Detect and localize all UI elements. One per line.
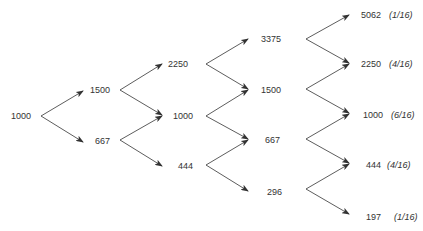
node-s4-3: 444	[366, 160, 381, 170]
node-s2-2: 444	[178, 161, 193, 171]
arrow-down	[120, 90, 162, 115]
arrow-up	[306, 64, 349, 89]
node-s4-1: 2250	[361, 59, 381, 69]
arrow-up	[306, 164, 349, 189]
node-s0-0: 1000	[11, 111, 31, 121]
node-s3-2: 667	[265, 135, 280, 145]
node-s2-1: 1000	[173, 111, 193, 121]
prob-s4-3: (4/16)	[387, 160, 411, 170]
node-s3-3: 296	[267, 187, 282, 197]
arrow-down	[306, 189, 349, 214]
prob-s4-1: (4/16)	[389, 59, 413, 69]
arrow-down	[206, 116, 248, 139]
arrow-down	[120, 140, 162, 166]
arrow-up	[120, 64, 162, 90]
arrow-up	[206, 39, 248, 64]
node-s2-0: 2250	[168, 59, 188, 69]
arrow-down	[206, 165, 248, 191]
node-s4-2: 1000	[363, 110, 383, 120]
arrow-down	[306, 39, 349, 63]
binomial-tree-diagram: 1000 1500 667 2250 1000 444 3375 1500 66…	[0, 0, 423, 231]
tree-arrows	[0, 0, 423, 231]
node-s1-1: 667	[95, 136, 110, 146]
node-s3-1: 1500	[261, 85, 281, 95]
arrow-up	[306, 114, 349, 139]
prob-s4-4: (1/16)	[394, 212, 418, 222]
arrow-up	[306, 15, 349, 39]
arrow-down	[41, 116, 83, 142]
prob-s4-2: (6/16)	[391, 110, 415, 120]
arrow-down	[306, 139, 349, 163]
arrow-up	[120, 116, 162, 140]
arrow-down	[206, 64, 248, 89]
node-s4-0: 5062	[361, 10, 381, 20]
arrow-up	[41, 91, 83, 116]
node-s4-4: 197	[366, 212, 381, 222]
arrow-up	[206, 90, 248, 116]
prob-s4-0: (1/16)	[389, 10, 413, 20]
arrow-down	[306, 89, 349, 113]
arrow-up	[206, 140, 248, 165]
node-s1-0: 1500	[90, 85, 110, 95]
node-s3-0: 3375	[261, 34, 281, 44]
